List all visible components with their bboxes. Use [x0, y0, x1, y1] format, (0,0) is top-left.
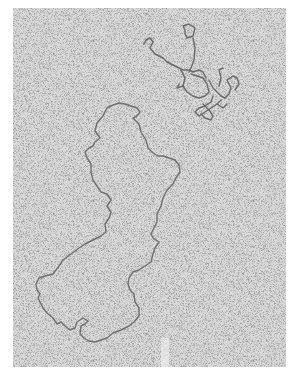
- micrograph: [13, 8, 286, 367]
- light-streak: [161, 338, 169, 367]
- speckle-noise: [13, 8, 286, 367]
